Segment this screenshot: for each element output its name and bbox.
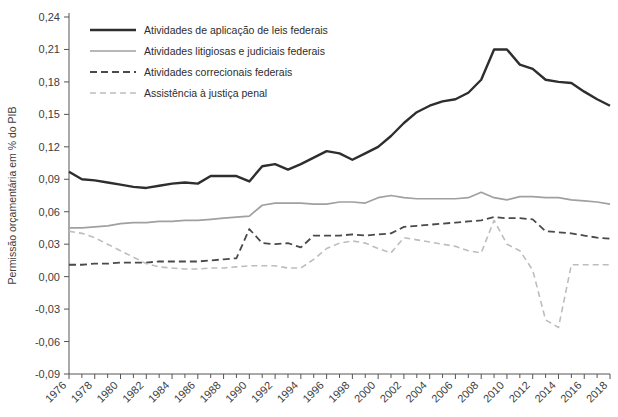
- x-axis-tick-label: 1992: [249, 379, 275, 405]
- legend-label-1: Atividades litigiosas e judiciais federa…: [144, 45, 325, 57]
- x-axis-tick-label: 2004: [403, 379, 429, 405]
- x-axis-tick-label: 1998: [326, 379, 352, 405]
- y-axis-tick-label: 0,18: [39, 76, 60, 88]
- x-axis-tick-label: 2018: [584, 379, 610, 405]
- y-axis-tick-label: 0,00: [39, 271, 60, 283]
- x-axis-tick-label: 2014: [532, 379, 558, 405]
- y-axis-tick-label: 0,21: [39, 43, 60, 55]
- y-axis-tick-label: 0,09: [39, 173, 60, 185]
- x-axis-tick-label: 1984: [146, 379, 172, 405]
- x-axis-tick-label: 2002: [378, 379, 404, 405]
- x-axis-tick-label: 2012: [506, 379, 532, 405]
- legend-label-3: Assistência à justiça penal: [144, 87, 267, 99]
- x-axis-tick-label: 1980: [94, 379, 120, 405]
- y-axis-tick-label: 0,03: [39, 238, 60, 250]
- x-axis-tick-label: 1986: [171, 379, 197, 405]
- y-axis-tick-label: 0,12: [39, 141, 60, 153]
- x-axis-tick-label: 1990: [223, 379, 249, 405]
- y-axis-tick-label: 0,15: [39, 108, 60, 120]
- x-axis-tick-label: 2008: [455, 379, 481, 405]
- chart-figure: 0,240,210,180,150,120,090,060,030,00-0,0…: [0, 0, 618, 417]
- x-axis-tick-label: 2006: [429, 379, 455, 405]
- x-axis-tick-label: 1996: [300, 379, 326, 405]
- y-axis-tick-label: -0,06: [35, 336, 60, 348]
- y-axis-tick-label: -0,09: [35, 368, 60, 380]
- y-axis-tick-label: 0,06: [39, 206, 60, 218]
- x-axis-tick-label: 1982: [120, 379, 146, 405]
- x-axis-tick-label: 1988: [197, 379, 223, 405]
- y-axis-tick-label: -0,03: [35, 303, 60, 315]
- series-line-1: [69, 192, 610, 228]
- y-axis-title: Permissão orçamentária em % do PIB: [6, 107, 18, 285]
- series-line-3: [69, 220, 610, 327]
- x-axis-tick-label: 1976: [43, 379, 69, 405]
- line-chart-canvas: 0,240,210,180,150,120,090,060,030,00-0,0…: [0, 0, 618, 417]
- y-axis-tick-label: 0,24: [39, 11, 60, 23]
- legend-label-0: Atividades de aplicação de leis federais: [144, 24, 328, 36]
- x-axis-tick-label: 2000: [352, 379, 378, 405]
- x-axis-tick-label: 2016: [558, 379, 584, 405]
- x-axis-tick-label: 1994: [274, 379, 300, 405]
- legend-label-2: Atividades correcionais federais: [144, 66, 292, 78]
- series-line-2: [69, 217, 610, 265]
- x-axis-tick-label: 2010: [481, 379, 507, 405]
- x-axis-tick-label: 1978: [68, 379, 94, 405]
